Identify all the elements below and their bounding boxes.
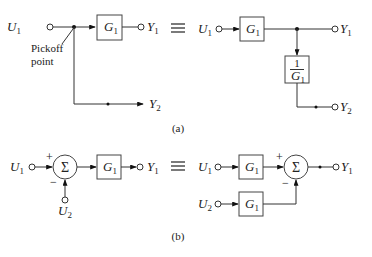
output-terminal-y1 xyxy=(333,164,339,170)
plus-sign: + xyxy=(46,150,53,164)
part-a-right-diagram: U1 G1 Y1 1 G1 Y2 xyxy=(198,17,352,116)
pickoff-label-line2: point xyxy=(31,55,54,67)
output-y1-label: Y1 xyxy=(147,159,159,176)
input-u1-label: U1 xyxy=(7,19,21,36)
pickoff-label-line1: Pickoff xyxy=(31,42,64,54)
output-terminal-y2 xyxy=(332,104,338,110)
block-diagram-equivalences: U1 Pickoff point G1 Y1 Y2 U1 G1 Y1 1 xyxy=(0,0,372,257)
sigma-symbol: Σ xyxy=(61,160,69,175)
part-b-right-diagram: U1 G1 + Σ − Y1 U2 G1 xyxy=(198,150,353,216)
input-u2-label: U2 xyxy=(198,196,212,213)
input-u1-label: U1 xyxy=(198,159,212,176)
input-terminal-u2 xyxy=(215,201,221,207)
output-y2-label: Y2 xyxy=(340,99,352,116)
output-y2-label: Y2 xyxy=(149,96,161,113)
part-a-left-diagram: U1 Pickoff point G1 Y1 Y2 xyxy=(7,15,161,113)
output-terminal-y1 xyxy=(332,26,338,32)
line-dot xyxy=(315,106,318,109)
caption-b: (b) xyxy=(172,230,185,243)
input-u1-label: U1 xyxy=(10,159,24,176)
minus-sign: − xyxy=(282,176,289,190)
output-y1-label: Y1 xyxy=(340,21,352,38)
input-terminal xyxy=(216,26,222,32)
caption-a: (a) xyxy=(172,122,185,135)
output-y1-label: Y1 xyxy=(341,159,353,176)
part-b-left-diagram: U1 + Σ − U2 G1 Y1 xyxy=(10,150,159,220)
line-dot xyxy=(319,166,322,169)
pickoff-leader-line xyxy=(62,29,73,44)
equivalence-sign-a xyxy=(171,24,185,32)
minus-sign: − xyxy=(50,175,57,189)
input-terminal xyxy=(215,164,221,170)
output-terminal-y1 xyxy=(137,164,143,170)
equivalence-sign-b xyxy=(171,162,185,170)
sigma-symbol: Σ xyxy=(292,160,300,175)
output-terminal-y1 xyxy=(138,24,144,30)
input-u2-label: U2 xyxy=(58,203,72,220)
input-u1-label: U1 xyxy=(198,21,212,38)
plus-sign: + xyxy=(276,150,283,164)
input-terminal xyxy=(29,164,35,170)
output-y1-label: Y1 xyxy=(147,19,159,36)
input-terminal xyxy=(47,24,53,30)
line-dot xyxy=(107,103,110,106)
